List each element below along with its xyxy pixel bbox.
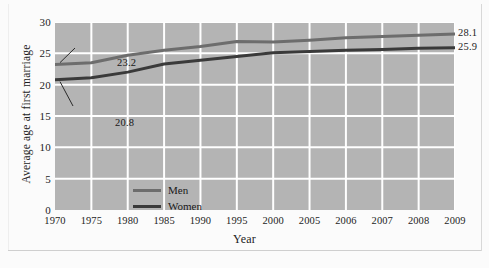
x-axis-tick-labels: 1970197519801985199019952000200520062007… bbox=[0, 0, 489, 268]
x-tick-label: 2009 bbox=[433, 216, 477, 227]
x-axis-title: Year bbox=[0, 232, 489, 247]
chart-figure: Average age at first marriage 0510152025… bbox=[0, 0, 489, 268]
